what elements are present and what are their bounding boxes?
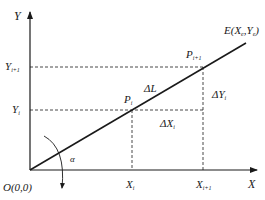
delta-l-label: ΔL bbox=[143, 82, 157, 94]
x-axis-label: X bbox=[247, 177, 256, 191]
origin-label: O(0,0) bbox=[3, 181, 32, 194]
p-i-label: Pi bbox=[123, 93, 133, 106]
p-i1-label: Pi+1 bbox=[185, 48, 201, 61]
delta-x-label: ΔXi bbox=[159, 117, 175, 130]
delta-y-label: ΔYi bbox=[211, 88, 227, 101]
endpoint-label: E(Xe,Ye) bbox=[223, 24, 259, 37]
x-i-label: Xi bbox=[125, 178, 135, 191]
y-i1-label: Yi+1 bbox=[5, 60, 20, 73]
angle-label: α bbox=[70, 154, 75, 164]
interpolation-diagram: Y X O(0,0) α Yi+1 Yi Xi Xi+1 Pi Pi+1 E(X… bbox=[0, 0, 265, 200]
y-axis-label: Y bbox=[14, 9, 22, 23]
y-i-label: Yi bbox=[12, 103, 20, 116]
angle-arc bbox=[44, 136, 63, 188]
line-segment-oe bbox=[30, 43, 246, 170]
x-i1-label: Xi+1 bbox=[195, 178, 211, 191]
